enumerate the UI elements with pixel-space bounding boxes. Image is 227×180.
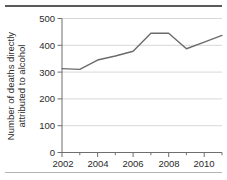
x-tick-label-2006: 2006	[122, 158, 143, 169]
y-tick-label-400: 400	[39, 40, 55, 51]
y-axis-tick-labels: 500 400 300 200 100 0	[39, 13, 55, 158]
chart-figure: Number of deaths directly attributed to …	[0, 0, 227, 180]
x-tick-label-2002: 2002	[52, 158, 73, 169]
x-tick-label-2008: 2008	[158, 158, 179, 169]
x-tick-label-2010: 2010	[193, 158, 214, 169]
x-tick-label-2004: 2004	[87, 158, 108, 169]
y-tick-label-300: 300	[39, 67, 55, 78]
line-chart: Number of deaths directly attributed to …	[0, 0, 227, 180]
y-axis-title-line-2: attributed to alcohol	[16, 45, 27, 128]
x-axis-ticks	[62, 153, 222, 158]
y-tick-label-100: 100	[39, 120, 55, 131]
x-axis-tick-labels: 2002 2004 2006 2008 2010	[52, 158, 214, 169]
y-tick-label-500: 500	[39, 13, 55, 24]
y-tick-label-200: 200	[39, 93, 55, 104]
y-axis-ticks	[58, 19, 63, 153]
gridlines	[62, 19, 222, 126]
data-series-line	[62, 33, 222, 69]
y-axis-title-line-1: Number of deaths directly	[5, 32, 16, 140]
y-tick-label-0: 0	[50, 147, 55, 158]
